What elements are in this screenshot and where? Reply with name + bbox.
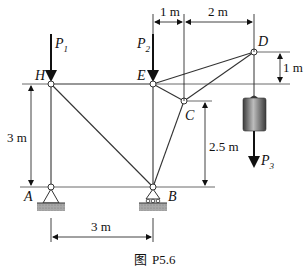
dim-label-2.5m: 2.5 m <box>209 139 239 154</box>
figure-caption: 图P5.6 <box>134 252 176 267</box>
dim-label-2m-top: 2 m <box>208 4 228 19</box>
label-C: C <box>185 108 195 123</box>
load-P2-arrow <box>147 34 159 82</box>
label-D: D <box>257 34 268 49</box>
member-CB <box>153 101 184 187</box>
member-ED <box>153 52 254 84</box>
label-P1: P1 <box>54 36 68 54</box>
label-H: H <box>34 68 46 83</box>
joint-B <box>150 184 156 190</box>
dim-label-3m-bottom: 3 m <box>91 219 111 234</box>
member-CD <box>184 52 254 101</box>
hanging-weight <box>243 52 266 168</box>
joint-E <box>150 81 156 87</box>
dim-label-1m-top: 1 m <box>160 4 180 19</box>
label-P2: P2 <box>136 36 151 54</box>
member-HB <box>51 84 153 187</box>
joint-A <box>48 184 54 190</box>
truss-diagram: H E C D A B P1 P2 P3 1 m 2 m 1 m 2.5 m 3… <box>0 0 305 270</box>
label-A: A <box>23 189 33 204</box>
joint-H <box>48 81 54 87</box>
label-P3: P3 <box>260 153 275 171</box>
member-EC <box>153 84 184 101</box>
dim-label-3m-left: 3 m <box>7 130 27 145</box>
support-B <box>139 189 167 211</box>
label-B: B <box>168 189 177 204</box>
support-A <box>37 189 65 211</box>
dim-label-1m-right: 1 m <box>283 60 303 75</box>
label-E: E <box>136 68 146 83</box>
